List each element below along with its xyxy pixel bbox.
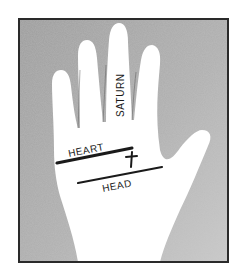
label-saturn: SATURN [115,74,126,117]
palmistry-illustration: HEART HEAD SATURN [0,0,244,277]
